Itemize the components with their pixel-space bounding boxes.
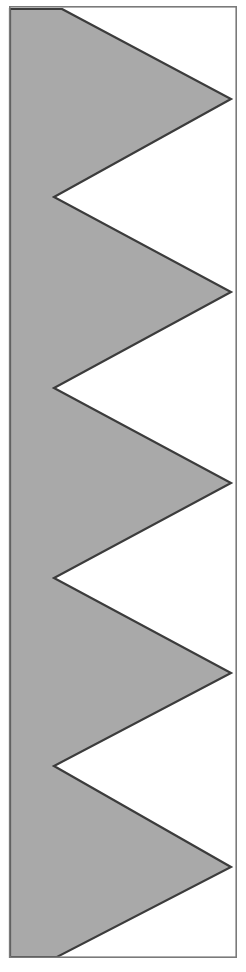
figure-canvas [0,0,246,972]
sawtooth-figure-svg [0,0,246,972]
